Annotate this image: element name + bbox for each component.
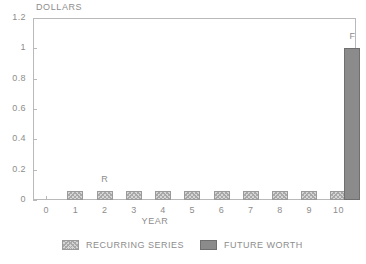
y-tick-label: 0.2 xyxy=(12,164,26,174)
legend-swatch-future-icon xyxy=(200,240,217,250)
bar-future-year-10 xyxy=(344,48,360,200)
x-tick-label: 2 xyxy=(95,205,115,215)
bar-recurring-year-7 xyxy=(243,191,259,200)
bar-recurring-year-3 xyxy=(126,191,142,200)
legend-item-recurring-series[interactable]: RECURRING SERIES xyxy=(62,238,184,252)
bar-chart: DOLLARS 00.20.40.60.811.2 012345678910 R… xyxy=(0,0,366,264)
y-tick-label: 0 xyxy=(21,194,26,204)
bar-recurring-year-5 xyxy=(184,191,200,200)
y-axis-title: DOLLARS xyxy=(36,2,82,12)
x-tick-label: 1 xyxy=(65,205,85,215)
x-tick-label: 5 xyxy=(182,205,202,215)
x-tick-label: 10 xyxy=(328,205,348,215)
y-tick-mark xyxy=(33,79,37,80)
x-axis-title-text: YEAR xyxy=(142,216,169,226)
x-tick-label: 9 xyxy=(299,205,319,215)
x-tick-label: 6 xyxy=(212,205,232,215)
legend-label-future-worth: FUTURE WORTH xyxy=(224,240,303,250)
legend-label-recurring-series: RECURRING SERIES xyxy=(86,240,184,250)
bar-recurring-year-2 xyxy=(97,191,113,200)
bar-recurring-year-9 xyxy=(301,191,317,200)
y-tick-label: 0.4 xyxy=(12,133,26,143)
annotation-r: R xyxy=(95,174,115,184)
y-tick-mark xyxy=(33,48,37,49)
x-axis-title: YEAR xyxy=(0,216,366,226)
y-tick-mark xyxy=(33,18,37,19)
x-tick-label: 8 xyxy=(270,205,290,215)
plot-area xyxy=(33,18,356,200)
x-tick-mark xyxy=(46,196,47,200)
y-tick-label: 1.2 xyxy=(12,12,26,22)
x-tick-label: 7 xyxy=(241,205,261,215)
y-tick-label: 0.6 xyxy=(12,103,26,113)
legend-swatch-recurring-icon xyxy=(62,240,79,250)
bar-recurring-year-1 xyxy=(67,191,83,200)
bar-recurring-year-4 xyxy=(155,191,171,200)
legend-item-future-worth[interactable]: FUTURE WORTH xyxy=(200,238,303,252)
bar-recurring-year-8 xyxy=(272,191,288,200)
y-tick-mark xyxy=(33,139,37,140)
chart-legend: RECURRING SERIES FUTURE WORTH xyxy=(0,238,366,254)
x-tick-label: 0 xyxy=(36,205,56,215)
x-tick-label: 4 xyxy=(153,205,173,215)
bar-recurring-year-6 xyxy=(214,191,230,200)
y-tick-mark xyxy=(33,170,37,171)
annotation-f: F xyxy=(342,31,362,41)
y-tick-label: 0.8 xyxy=(12,73,26,83)
y-tick-label: 1 xyxy=(21,42,26,52)
y-tick-mark xyxy=(33,200,37,201)
x-tick-label: 3 xyxy=(124,205,144,215)
y-tick-mark xyxy=(33,109,37,110)
